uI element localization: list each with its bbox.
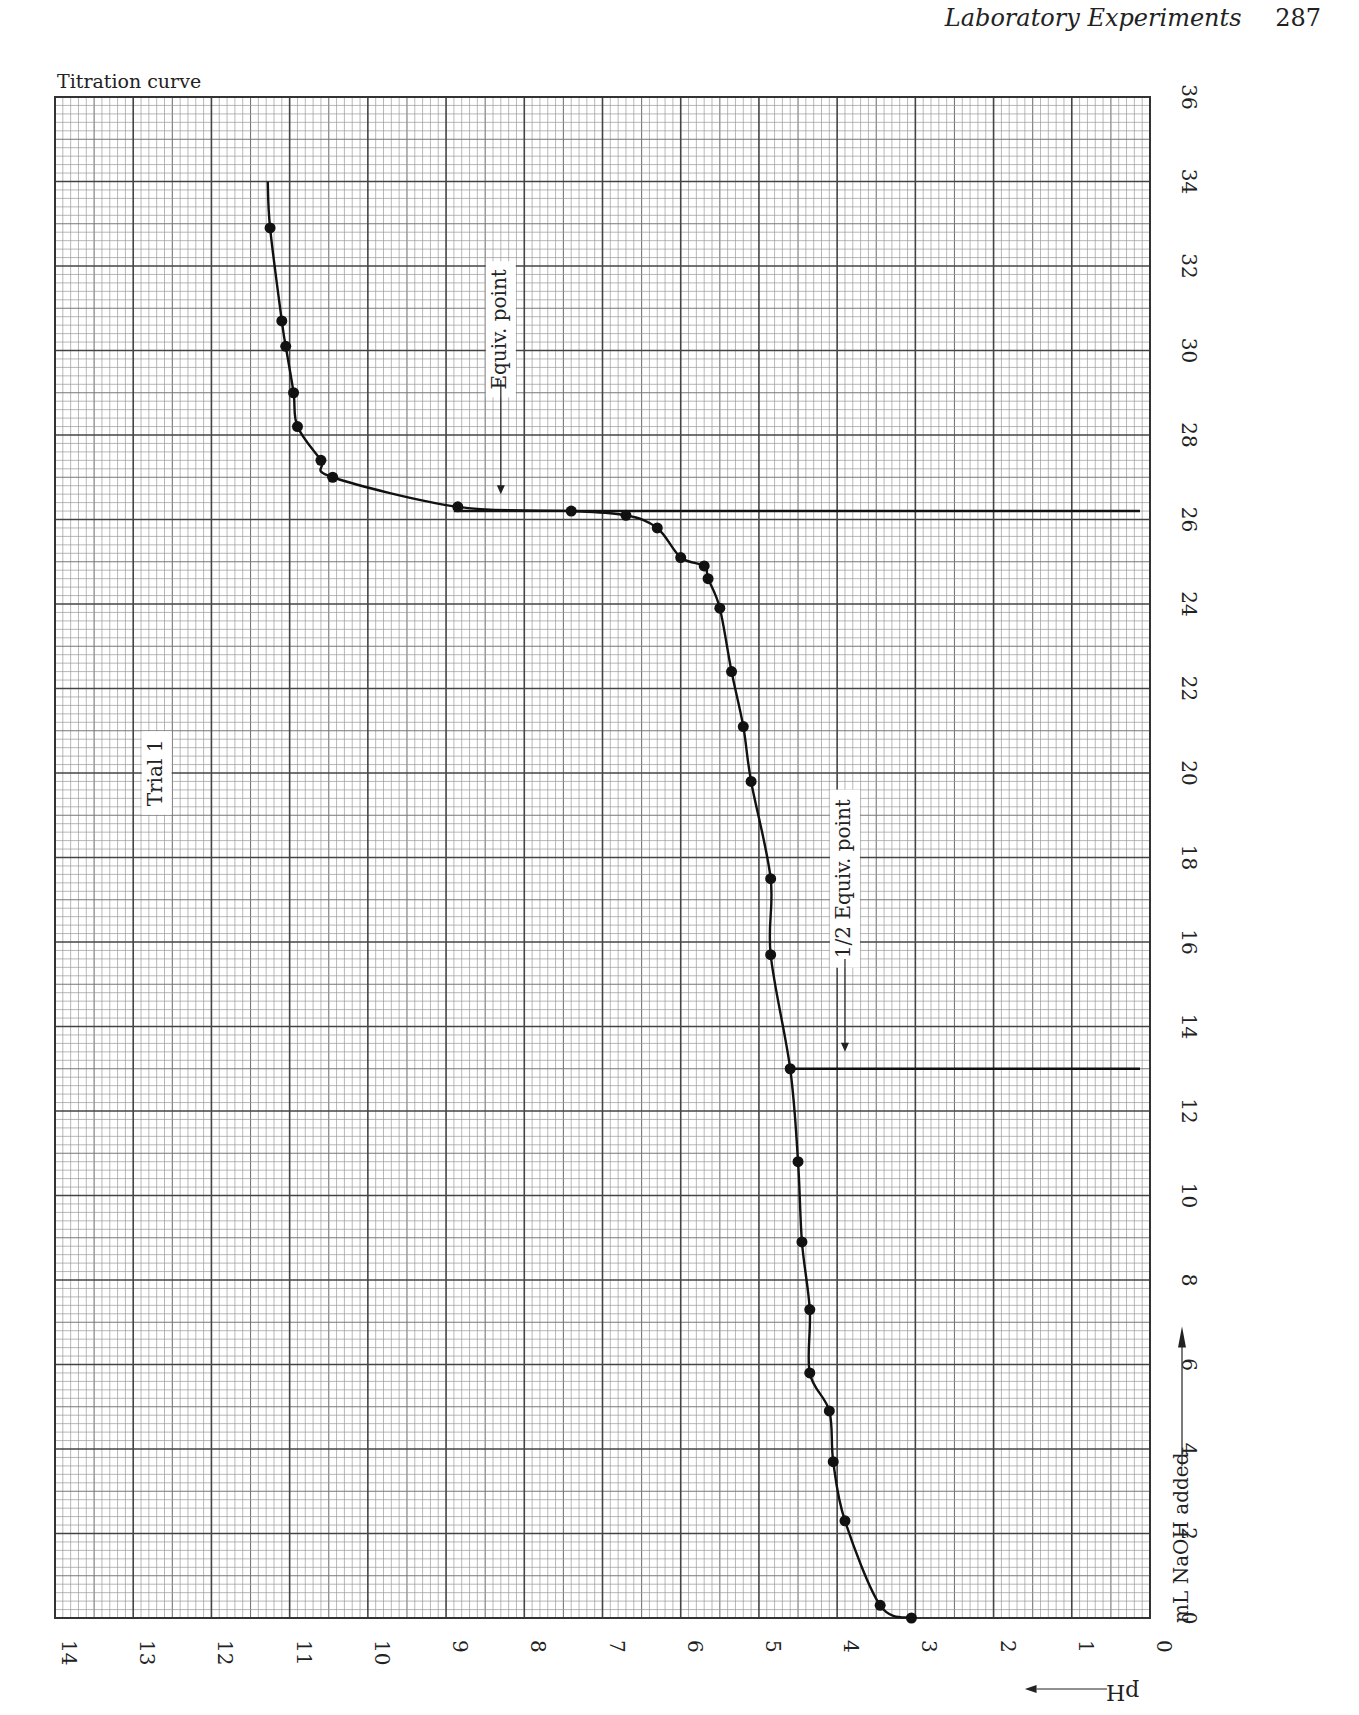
annotation-text: Equiv. point (487, 269, 511, 389)
ml-tick-label: 34 (1177, 169, 1201, 194)
ph-tick-label: 1 (1074, 1640, 1098, 1653)
ph-tick-label: 4 (839, 1640, 863, 1653)
ph-axis-arrow-head (1025, 1685, 1037, 1693)
ml-tick-label: 36 (1177, 84, 1201, 109)
data-point (828, 1456, 839, 1467)
annotation: Trial 1 (142, 731, 172, 815)
ph-tick-label: 5 (761, 1640, 785, 1653)
data-point (652, 522, 663, 533)
ml-tick-label: 30 (1177, 338, 1201, 363)
ph-tick-label: 7 (605, 1640, 629, 1653)
data-point (765, 873, 776, 884)
data-point (280, 341, 291, 352)
ml-tick-label: 8 (1177, 1274, 1201, 1287)
ml-tick-label: 12 (1177, 1098, 1201, 1123)
data-point (675, 552, 686, 563)
ml-tick-label: 10 (1177, 1183, 1201, 1208)
ph-tick-label: 14 (57, 1640, 81, 1665)
data-point (875, 1600, 886, 1611)
data-point (726, 666, 737, 677)
data-point (620, 510, 631, 521)
ml-tick-label: 16 (1177, 929, 1201, 954)
data-point (804, 1304, 815, 1315)
ml-tick-label: 6 (1177, 1358, 1201, 1371)
ml-tick-label: 24 (1177, 591, 1201, 616)
ml-tick-label: 22 (1177, 676, 1201, 701)
annotation-text: 1/2 Equiv. point (831, 799, 855, 958)
ml-tick-label: 26 (1177, 507, 1201, 532)
ml-tick-label: 14 (1177, 1014, 1201, 1039)
half-equiv-point-arrow-head (841, 1043, 849, 1052)
ph-tick-label: 11 (292, 1640, 316, 1665)
annotation: 1/2 Equiv. point (830, 790, 860, 968)
data-point (738, 721, 749, 732)
data-point (804, 1367, 815, 1378)
data-point (746, 776, 757, 787)
data-point (292, 421, 303, 432)
data-point (703, 573, 714, 584)
data-point (265, 222, 276, 233)
ml-tick-labels: 024681012141618202224262830323436 (1177, 84, 1201, 1624)
data-point (793, 1156, 804, 1167)
data-points (265, 222, 917, 1623)
ph-tick-label: 8 (526, 1640, 550, 1653)
equiv-point-arrow-head (497, 485, 505, 494)
ph-tick-label: 10 (370, 1640, 394, 1665)
data-point (765, 949, 776, 960)
data-point (824, 1405, 835, 1416)
ml-axis-title: mL NaOH added (1169, 1452, 1193, 1623)
titration-chart: 01234567891011121314 0246810121416182022… (0, 0, 1359, 1715)
data-point (906, 1613, 917, 1624)
data-point (566, 506, 577, 517)
ph-tick-label: 2 (996, 1640, 1020, 1653)
ph-tick-label: 12 (213, 1640, 237, 1665)
ml-tick-label: 28 (1177, 422, 1201, 447)
annotation-text: Trial 1 (143, 740, 167, 807)
data-point (839, 1515, 850, 1526)
ph-tick-label: 13 (135, 1640, 159, 1665)
data-point (714, 603, 725, 614)
data-point (785, 1063, 796, 1074)
data-point (327, 472, 338, 483)
ml-axis-arrow-head (1178, 1326, 1186, 1347)
ml-tick-label: 18 (1177, 845, 1201, 870)
ph-axis-title: pH (1106, 1680, 1139, 1705)
data-point (796, 1236, 807, 1247)
ph-tick-labels: 01234567891011121314 (57, 1640, 1176, 1665)
data-point (288, 387, 299, 398)
ph-tick-label: 9 (448, 1640, 472, 1653)
ph-tick-label: 0 (1152, 1640, 1176, 1653)
ph-tick-label: 6 (683, 1640, 707, 1653)
data-point (315, 455, 326, 466)
data-point (452, 501, 463, 512)
data-point (699, 560, 710, 571)
ml-tick-label: 32 (1177, 253, 1201, 278)
annotation: Equiv. point (486, 261, 516, 397)
ph-tick-label: 3 (917, 1640, 941, 1653)
data-point (276, 315, 287, 326)
ml-tick-label: 20 (1177, 760, 1201, 785)
